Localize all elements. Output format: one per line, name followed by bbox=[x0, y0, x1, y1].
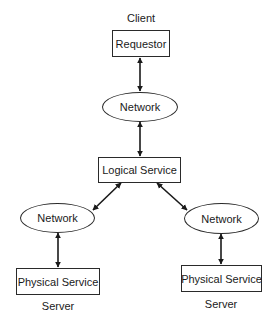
logical-service-node: Logical Service bbox=[98, 157, 181, 183]
physical-service-right-node: Physical Service bbox=[181, 265, 262, 292]
physical-service-left-node: Physical Service bbox=[16, 268, 100, 295]
server-right-label: Server bbox=[199, 299, 243, 310]
server-left-label: Server bbox=[36, 301, 80, 312]
network-left-node: Network bbox=[20, 203, 95, 233]
network-right-label: Network bbox=[201, 213, 241, 225]
client-label: Client bbox=[118, 13, 164, 24]
architecture-diagram: Client Requestor Network Logical Service… bbox=[0, 0, 278, 318]
network-right-node: Network bbox=[184, 203, 259, 234]
network-top-node: Network bbox=[102, 92, 178, 122]
physical-service-right-label: Physical Service bbox=[181, 273, 262, 285]
edge-logical-service-network-left bbox=[93, 183, 121, 210]
edge-logical-service-network-right bbox=[157, 183, 187, 210]
requestor-node: Requestor bbox=[112, 30, 170, 57]
physical-service-left-label: Physical Service bbox=[18, 276, 99, 288]
network-left-label: Network bbox=[37, 212, 77, 224]
network-top-label: Network bbox=[120, 101, 160, 113]
logical-service-label: Logical Service bbox=[102, 164, 177, 176]
requestor-label: Requestor bbox=[116, 38, 167, 50]
